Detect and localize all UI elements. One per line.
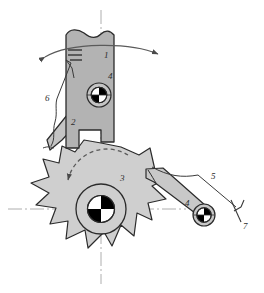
ratchet-pawl-mechanism-drawing <box>0 0 264 293</box>
label-7: 7 <box>243 222 248 231</box>
diagram-canvas: 1 2 3 4 4 5 6 7 <box>0 0 264 293</box>
label-2: 2 <box>71 118 76 127</box>
ground-support-7 <box>231 200 244 222</box>
label-4-upper: 4 <box>108 72 113 81</box>
label-3: 3 <box>120 174 125 183</box>
label-5: 5 <box>211 172 216 181</box>
label-6: 6 <box>45 94 50 103</box>
pin-joint-lower-right <box>193 204 215 226</box>
label-1: 1 <box>104 51 109 60</box>
label-4-lower: 4 <box>185 199 190 208</box>
wheel-hub <box>76 184 126 234</box>
pin-joint-upper <box>87 83 111 107</box>
